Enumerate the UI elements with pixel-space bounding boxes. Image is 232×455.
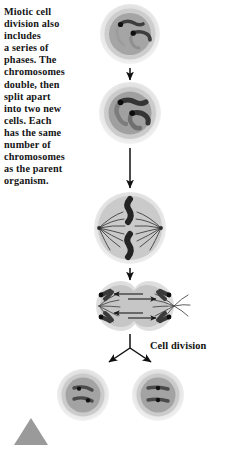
triangle-marker-icon — [14, 418, 48, 445]
stage-interphase-cell — [100, 4, 160, 64]
mitosis-diagram: Miotic cell division also includes a ser… — [0, 0, 232, 455]
figure-caption: Miotic cell division also includes a ser… — [4, 6, 100, 187]
arrow-cell-division-split — [109, 334, 151, 362]
cell-division-label: Cell division — [150, 340, 206, 351]
stage-anaphase-cell — [96, 281, 190, 331]
stage-daughter-cell-left — [57, 369, 109, 421]
stage-daughter-cell-right — [132, 369, 184, 421]
stage-metaphase-cell — [94, 192, 166, 264]
stage-prophase-cell — [99, 82, 161, 144]
